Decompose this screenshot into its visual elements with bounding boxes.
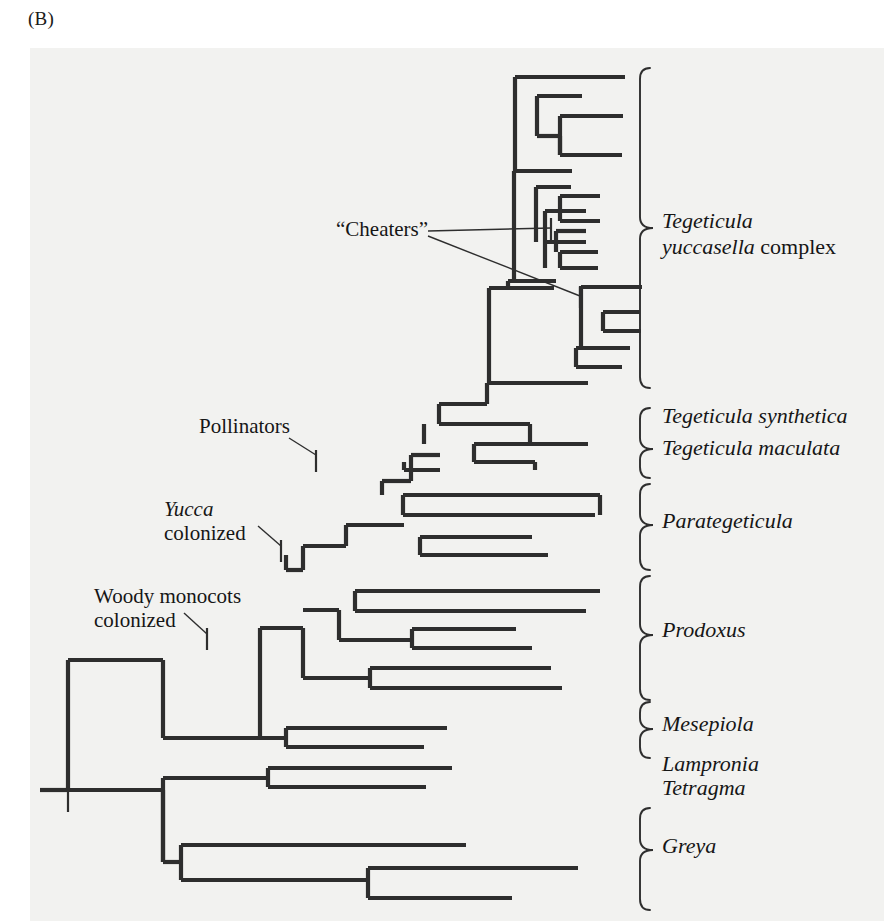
clade-label-mesepiola: Mesepiola: [661, 711, 754, 736]
clade-label-tegeticula-synthetica: Tegeticula synthetica: [662, 403, 848, 428]
annotation-label-woody-monocots-colonized: colonized: [94, 608, 176, 632]
annotation-label-woody-monocots-colonized: Woody monocots: [94, 584, 241, 608]
annotation-label-pollinators: Pollinators: [199, 414, 290, 438]
clade-label-lampronia-tetragma: Tetragma: [662, 775, 746, 800]
annotation-label-cheaters: “Cheaters”: [336, 217, 428, 241]
phylogenetic-tree: Tegeticulayuccasella complexTegeticula s…: [0, 0, 884, 921]
label-italic-part: yuccasella: [660, 234, 755, 259]
clade-label-tegeticula-yuccasella: yuccasella complex: [660, 234, 836, 259]
clade-label-tegeticula-maculata: Tegeticula maculata: [662, 435, 840, 460]
figure-panel: (B) Tegeticulayuccasella complexTegeticu…: [0, 0, 884, 921]
clade-label-greya: Greya: [662, 833, 716, 858]
clade-label-tegeticula-yuccasella: Tegeticula: [662, 208, 753, 233]
clade-label-parategeticula: Parategeticula: [661, 508, 793, 533]
annotation-label-yucca-colonized: colonized: [164, 521, 246, 545]
label-roman-part: complex: [755, 234, 836, 259]
clade-label-lampronia-tetragma: Lampronia: [661, 751, 759, 776]
clade-label-prodoxus: Prodoxus: [661, 617, 746, 642]
annotation-label-yucca-colonized: Yucca: [164, 497, 213, 521]
